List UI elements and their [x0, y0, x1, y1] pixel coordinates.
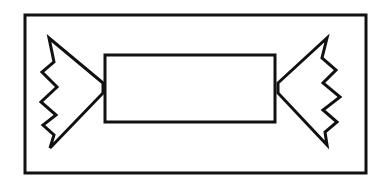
left-wrapper-twist	[41, 38, 103, 148]
right-wrapper-twist	[278, 38, 340, 145]
candy-body	[105, 55, 275, 122]
candy-drawing	[0, 0, 383, 181]
